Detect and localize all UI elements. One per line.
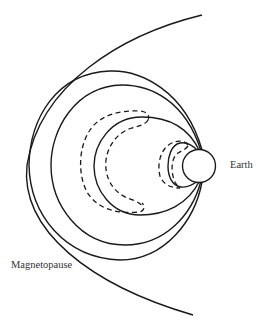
- field-line-outer: [29, 71, 202, 260]
- magnetopause-label: Magnetopause: [11, 259, 72, 270]
- dashed-field-line-inner-middle: [106, 120, 148, 206]
- magnetopause-curve: [27, 15, 202, 315]
- earth-circle: [183, 150, 216, 183]
- magnetosphere-diagram: [0, 0, 269, 332]
- earth-label: Earth: [230, 159, 253, 170]
- field-line-second: [51, 85, 201, 245]
